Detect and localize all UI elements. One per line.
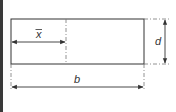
section-rectangle xyxy=(11,19,144,64)
b-label: b xyxy=(74,73,80,85)
section-diagram: x d b xyxy=(0,0,176,112)
diagram-canvas: x d b xyxy=(0,0,176,112)
d-label: d xyxy=(155,35,162,47)
